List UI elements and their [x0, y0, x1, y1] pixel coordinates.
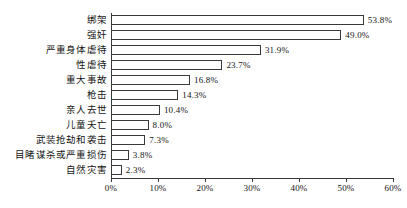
bar-row: 武装抢劫和袭击7.3% — [0, 133, 407, 148]
category-label: 枪击 — [0, 90, 107, 101]
bar — [111, 150, 129, 160]
bar-chart: 绑架53.8%强奸49.0%严重身体虐待31.9%性虐待23.7%重大事故16.… — [0, 0, 407, 208]
bar-track: 31.9% — [111, 43, 393, 58]
bar-row: 目睹谋杀或严重损伤3.8% — [0, 148, 407, 163]
bar-value-label: 2.3% — [126, 164, 146, 176]
x-tick-label: 10% — [149, 183, 166, 194]
bar-track: 23.7% — [111, 58, 393, 73]
bar-row: 绑架53.8% — [0, 13, 407, 28]
bar — [111, 90, 178, 100]
bar-row: 自然灾害2.3% — [0, 163, 407, 178]
x-tick-label: 30% — [243, 183, 260, 194]
x-tick-mark — [299, 178, 300, 182]
bar — [111, 165, 122, 175]
chart-plot-area: 绑架53.8%强奸49.0%严重身体虐待31.9%性虐待23.7%重大事故16.… — [0, 13, 407, 178]
bar-row: 枪击14.3% — [0, 88, 407, 103]
x-tick-mark — [111, 178, 112, 182]
bar-row: 儿童夭亡8.0% — [0, 118, 407, 133]
bar-row: 亲人去世10.4% — [0, 103, 407, 118]
category-label: 目睹谋杀或严重损伤 — [0, 150, 107, 161]
bar-track: 49.0% — [111, 28, 393, 43]
category-label: 亲人去世 — [0, 105, 107, 116]
bar-value-label: 49.0% — [345, 29, 369, 41]
bar — [111, 30, 341, 40]
bar — [111, 15, 364, 25]
bar-row: 严重身体虐待31.9% — [0, 43, 407, 58]
category-label: 强奸 — [0, 30, 107, 41]
bar-value-label: 10.4% — [164, 104, 188, 116]
bar-row: 性虐待23.7% — [0, 58, 407, 73]
bar-value-label: 23.7% — [226, 59, 250, 71]
bar — [111, 120, 149, 130]
bar-value-label: 7.3% — [149, 134, 169, 146]
x-tick-label: 50% — [337, 183, 354, 194]
bar-value-label: 31.9% — [265, 44, 289, 56]
bar — [111, 45, 261, 55]
y-axis-line — [111, 13, 112, 178]
x-tick-label: 20% — [196, 183, 213, 194]
bar-value-label: 16.8% — [194, 74, 218, 86]
x-tick-label: 60% — [384, 183, 401, 194]
bar — [111, 75, 190, 85]
bar-value-label: 3.8% — [133, 149, 153, 161]
x-tick-mark — [393, 178, 394, 182]
bar-row: 强奸49.0% — [0, 28, 407, 43]
category-label: 性虐待 — [0, 60, 107, 71]
bar-value-label: 14.3% — [182, 89, 206, 101]
bar-track: 16.8% — [111, 73, 393, 88]
bar-value-label: 8.0% — [153, 119, 173, 131]
bar — [111, 135, 145, 145]
category-label: 重大事故 — [0, 75, 107, 86]
bar-track: 14.3% — [111, 88, 393, 103]
category-label: 严重身体虐待 — [0, 45, 107, 56]
x-tick-label: 0% — [105, 183, 117, 194]
category-label: 儿童夭亡 — [0, 120, 107, 131]
bar-track: 2.3% — [111, 163, 393, 178]
bar-track: 3.8% — [111, 148, 393, 163]
x-tick-label: 40% — [290, 183, 307, 194]
category-label: 自然灾害 — [0, 165, 107, 176]
x-tick-mark — [158, 178, 159, 182]
x-tick-mark — [346, 178, 347, 182]
bar-track: 53.8% — [111, 13, 393, 28]
x-tick-mark — [205, 178, 206, 182]
bar-track: 7.3% — [111, 133, 393, 148]
bar — [111, 60, 222, 70]
category-label: 绑架 — [0, 15, 107, 26]
bar-track: 8.0% — [111, 118, 393, 133]
bar-value-label: 53.8% — [368, 14, 392, 26]
category-label: 武装抢劫和袭击 — [0, 135, 107, 146]
x-tick-mark — [252, 178, 253, 182]
bar-row: 重大事故16.8% — [0, 73, 407, 88]
bar-track: 10.4% — [111, 103, 393, 118]
bar — [111, 105, 160, 115]
